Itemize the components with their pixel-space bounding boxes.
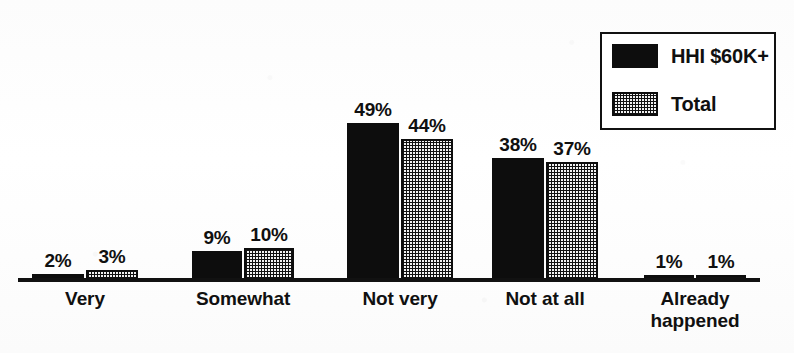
bar-value-label: 44% <box>401 115 453 137</box>
legend-swatch-icon <box>612 92 658 116</box>
legend-label: HHI $60K+ <box>671 45 769 68</box>
legend-swatch-icon <box>612 44 658 68</box>
bar-value-label: 9% <box>192 227 242 249</box>
bar-value-label: 3% <box>86 246 138 268</box>
x-axis-baseline <box>18 278 760 282</box>
legend-item-hhi: HHI $60K+ <box>612 41 769 71</box>
legend-label: Total <box>671 93 716 116</box>
bar-value-label: 1% <box>644 251 694 273</box>
bar-value-label: 10% <box>244 224 294 246</box>
bar-value-label: 1% <box>696 251 746 273</box>
bar-hhi <box>492 158 544 280</box>
bar-value-label: 2% <box>32 250 84 272</box>
legend-item-total: Total <box>612 89 716 119</box>
chart-page: 2%3%9%10%49%44%38%37%1%1% VerySomewhatNo… <box>0 0 794 353</box>
bar-value-label: 49% <box>347 99 399 121</box>
category-label: Very <box>0 288 175 310</box>
category-label: Somewhat <box>153 288 333 310</box>
bar-hhi <box>347 123 399 280</box>
bar-value-label: 38% <box>492 134 544 156</box>
bar-total <box>546 162 598 280</box>
bar-value-label: 37% <box>546 138 598 160</box>
bar-total <box>244 248 294 280</box>
bar-hhi <box>192 251 242 280</box>
chart-legend: HHI $60K+Total <box>600 32 776 130</box>
category-label: Already happened <box>605 288 785 332</box>
bar-total <box>401 139 453 280</box>
